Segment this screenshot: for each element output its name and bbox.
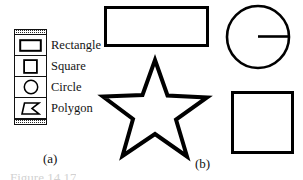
figure-caption: Figure 14.17 — [10, 171, 76, 180]
caption-b: (b) — [195, 157, 210, 170]
shape-star-polygon[interactable] — [103, 60, 207, 157]
caption-a: (a) — [43, 152, 57, 165]
shape-square[interactable] — [233, 93, 293, 153]
shape-rectangle[interactable] — [106, 8, 208, 46]
figure-panel: Rectangle Square Circle — [0, 0, 303, 180]
